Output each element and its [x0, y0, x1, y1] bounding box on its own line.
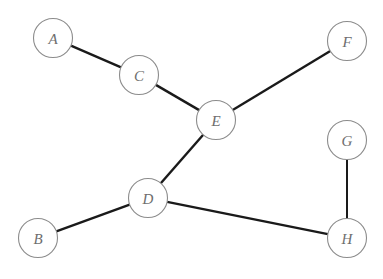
node-label-f: F [341, 34, 352, 50]
graph-edge-d-b [56, 205, 129, 232]
graph-node-c[interactable]: C [120, 56, 159, 95]
diagram-canvas: ABCDEFGH [0, 0, 383, 279]
graph-edge-e-d [161, 135, 203, 184]
node-label-e: E [210, 113, 220, 129]
node-label-a: A [47, 31, 58, 47]
node-label-b: B [33, 231, 42, 247]
node-label-h: H [341, 231, 354, 247]
graph-node-d[interactable]: D [129, 179, 168, 218]
graph-node-h[interactable]: H [328, 219, 367, 258]
graph-edge-a-c [71, 46, 121, 68]
node-layer: ABCDEFGH [19, 19, 367, 258]
node-label-d: D [142, 191, 154, 207]
graph-node-a[interactable]: A [34, 19, 73, 58]
graph-svg: ABCDEFGH [0, 0, 383, 279]
edge-layer [56, 46, 347, 234]
node-label-c: C [134, 68, 145, 84]
graph-node-f[interactable]: F [328, 22, 367, 61]
graph-edge-c-e [156, 85, 199, 110]
graph-node-g[interactable]: G [328, 121, 367, 160]
node-label-g: G [342, 133, 353, 149]
graph-edge-e-f [233, 51, 331, 110]
graph-edge-d-h [167, 202, 328, 234]
graph-node-b[interactable]: B [19, 219, 58, 258]
graph-node-e[interactable]: E [197, 101, 236, 140]
